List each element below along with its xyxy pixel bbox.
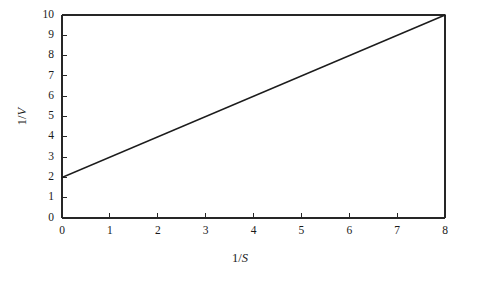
y-tick-label-10: 10 (43, 8, 55, 20)
y-tick-label-0: 0 (48, 211, 54, 223)
x-axis-title: 1/S (232, 251, 249, 265)
y-tick-label-6: 6 (48, 89, 54, 101)
y-tick-label-8: 8 (48, 48, 54, 60)
x-tick-label-1: 1 (107, 224, 113, 236)
figure-container: 0 1 2 3 4 5 6 7 8 9 10 0 1 (0, 0, 479, 284)
x-tick-label-6: 6 (346, 224, 352, 236)
y-tick-label-5: 5 (48, 109, 54, 121)
x-tick-label-0: 0 (59, 224, 65, 236)
y-tick-label-1: 1 (48, 190, 54, 202)
x-tick-label-3: 3 (203, 224, 209, 236)
plot-background (0, 0, 479, 284)
x-axis-title-group: 1/S (232, 251, 249, 265)
y-tick-label-7: 7 (48, 69, 54, 81)
y-axis-title-plain: 1/ (15, 115, 29, 125)
x-axis-title-italic: S (242, 251, 249, 265)
x-tick-label-4: 4 (251, 224, 257, 236)
x-tick-label-2: 2 (155, 224, 161, 236)
x-axis-title-plain: 1/ (232, 251, 242, 265)
y-axis-title: 1/V (15, 106, 29, 125)
x-tick-label-5: 5 (299, 224, 305, 236)
y-axis-title-group: 1/V (15, 106, 29, 125)
y-tick-label-3: 3 (48, 150, 54, 162)
y-tick-label-9: 9 (48, 28, 54, 40)
x-tick-label-7: 7 (394, 224, 400, 236)
y-tick-label-2: 2 (48, 170, 54, 182)
lineweaver-burk-plot: 0 1 2 3 4 5 6 7 8 9 10 0 1 (0, 0, 479, 284)
y-tick-label-4: 4 (48, 129, 54, 141)
x-tick-label-8: 8 (442, 224, 448, 236)
